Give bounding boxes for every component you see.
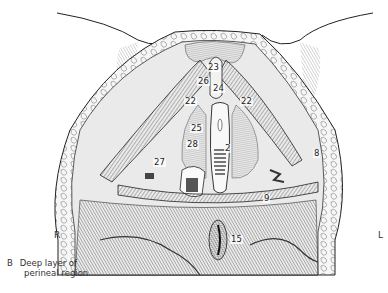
label-15: 15 (230, 235, 243, 244)
right-thigh-outline (262, 13, 373, 44)
figure-caption: B Deep layer of perineal region (7, 258, 88, 278)
panel-letter: B (7, 258, 17, 268)
label-25: 25 (190, 124, 203, 133)
side-marker-left: L (378, 230, 383, 240)
label-28: 28 (186, 140, 199, 149)
label-26: 26 (197, 77, 210, 86)
label-2: 2 (224, 144, 231, 153)
label-27: 27 (153, 158, 166, 167)
label-9: 9 (263, 194, 270, 203)
label-23: 23 (207, 63, 220, 72)
label-22-left: 22 (184, 97, 197, 106)
caption-line-1: Deep layer of (20, 258, 77, 268)
label-8: 8 (313, 149, 320, 158)
side-marker-right: R (54, 230, 60, 240)
label-22-right: 22 (240, 97, 253, 106)
caption-line-2: perineal region (7, 268, 88, 278)
label-24: 24 (212, 84, 225, 93)
